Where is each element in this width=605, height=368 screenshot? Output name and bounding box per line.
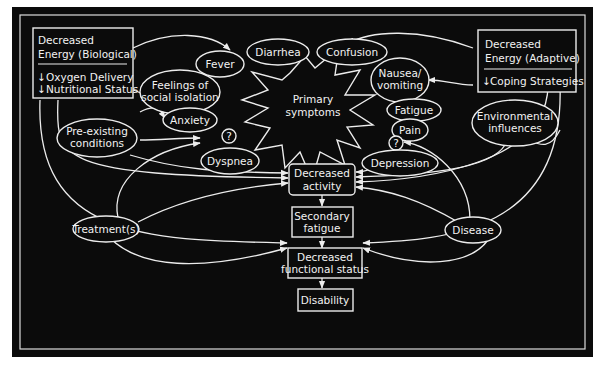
- box-decreased-functional-status: Decreased functional status: [281, 248, 369, 278]
- oval-pre-existing-conditions: Pre-existing conditions: [57, 119, 137, 157]
- energy-bio-item-oxygen: Oxygen Delivery: [46, 71, 133, 83]
- energy-adaptive-title-1: Decreased: [485, 38, 541, 50]
- nausea-label-2: vomiting: [377, 79, 423, 91]
- energy-adaptive-item-coping: Coping Strategies: [490, 75, 584, 87]
- energy-bio-title-2: Energy (Biological): [38, 48, 137, 60]
- preexisting-label-1: Pre-existing: [66, 125, 128, 137]
- box-decreased-activity: Decreased activity: [289, 164, 355, 195]
- pain-label: Pain: [399, 124, 421, 136]
- down-arrow-icon: ↓: [37, 83, 46, 95]
- treatment-label: Treatment(s): [71, 223, 139, 235]
- environmental-label-2: influences: [488, 122, 542, 134]
- oval-anxiety: Anxiety: [163, 108, 217, 132]
- oval-question-left: ?: [222, 129, 236, 143]
- oval-disease: Disease: [445, 217, 501, 243]
- oval-dyspnea: Dyspnea: [201, 148, 259, 174]
- preexisting-label-2: conditions: [70, 137, 124, 149]
- oval-depression: Depression: [362, 150, 438, 176]
- environmental-label-1: Environmental: [477, 110, 553, 122]
- primary-symptoms-label-1: Primary: [293, 93, 334, 105]
- oval-fever: Fever: [196, 51, 244, 77]
- secondary-fatigue-label-2: fatigue: [304, 222, 341, 234]
- box-disability: Disability: [298, 289, 353, 311]
- secondary-fatigue-label-1: Secondary: [294, 210, 350, 222]
- oval-environmental-influences: Environmental influences: [472, 100, 558, 146]
- confusion-label: Confusion: [326, 46, 378, 58]
- fatigue-label: Fatigue: [395, 104, 433, 116]
- oval-social-isolation: Feelings of social isolation: [140, 70, 220, 114]
- disease-label: Disease: [452, 224, 493, 236]
- oval-diarrhea: Diarrhea: [247, 39, 309, 65]
- energy-adaptive-title-2: Energy (Adaptive): [485, 52, 580, 64]
- diarrhea-label: Diarrhea: [255, 46, 300, 58]
- oval-fatigue: Fatigue: [387, 99, 441, 121]
- question-right-label: ?: [393, 137, 399, 149]
- oval-question-right: ?: [389, 136, 403, 150]
- energy-biological-box: Decreased Energy (Biological) ↓ Oxygen D…: [33, 28, 138, 98]
- oval-treatment: Treatment(s): [71, 216, 139, 242]
- question-left-label: ?: [226, 130, 232, 142]
- decreased-activity-label-1: Decreased: [294, 167, 350, 179]
- fatigue-model-diagram: Primary symptoms Decreased Energy (Biolo…: [0, 0, 605, 368]
- isolation-label-1: Feelings of: [152, 79, 209, 91]
- box-secondary-fatigue: Secondary fatigue: [292, 207, 353, 237]
- energy-bio-item-nutrition: Nutritional Status: [46, 83, 138, 95]
- fever-label: Fever: [206, 58, 236, 70]
- oval-nausea-vomiting: Nausea/ vomiting: [371, 58, 429, 102]
- energy-adaptive-box: Decreased Energy (Adaptive) ↓ Coping Str…: [478, 30, 584, 92]
- functional-status-label-2: functional status: [281, 263, 369, 275]
- primary-symptoms-label-2: symptoms: [286, 106, 341, 118]
- decreased-activity-label-2: activity: [303, 180, 342, 192]
- depression-label: Depression: [371, 157, 430, 169]
- anxiety-label: Anxiety: [170, 114, 210, 126]
- functional-status-label-1: Decreased: [297, 251, 353, 263]
- down-arrow-icon: ↓: [37, 71, 46, 83]
- nausea-label-1: Nausea/: [379, 67, 422, 79]
- dyspnea-label: Dyspnea: [207, 155, 253, 167]
- energy-bio-title-1: Decreased: [38, 34, 94, 46]
- isolation-label-2: social isolation: [141, 91, 219, 103]
- disability-label: Disability: [301, 294, 350, 306]
- oval-confusion: Confusion: [317, 39, 387, 65]
